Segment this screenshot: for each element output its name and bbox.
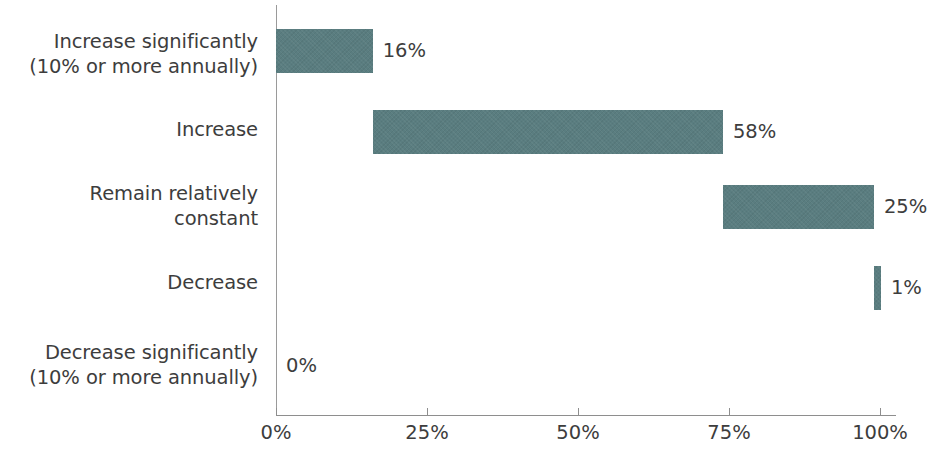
plot-area: 0% 25% 50% 75% 100% 16% 58% 25% 1% 0% <box>276 0 944 456</box>
category-label-increase-significantly: Increase significantly (10% or more annu… <box>0 29 258 79</box>
bar-remain-relatively-constant <box>723 185 874 229</box>
bar-decrease <box>874 266 881 310</box>
bar-increase <box>373 110 723 154</box>
x-tick-label-100: 100% <box>852 420 908 446</box>
category-label-decrease-significantly: Decrease significantly (10% or more annu… <box>0 340 258 390</box>
x-tick-mark-75 <box>729 408 730 416</box>
x-tick-mark-50 <box>578 408 579 416</box>
category-label-increase: Increase <box>0 117 258 142</box>
x-tick-mark-0 <box>276 408 277 416</box>
x-tick-label-75: 75% <box>707 420 750 446</box>
value-label-decrease: 1% <box>891 275 922 301</box>
value-label-remain-relatively-constant: 25% <box>884 194 927 220</box>
value-label-increase: 58% <box>733 119 776 145</box>
category-label-decrease: Decrease <box>0 270 258 295</box>
x-tick-label-25: 25% <box>405 420 448 446</box>
bar-increase-significantly <box>276 29 373 73</box>
value-label-decrease-significantly: 0% <box>286 353 317 379</box>
x-tick-label-50: 50% <box>556 420 599 446</box>
x-axis-line <box>276 415 896 416</box>
x-tick-label-0: 0% <box>261 420 292 446</box>
x-tick-mark-25 <box>427 408 428 416</box>
x-tick-mark-100 <box>880 408 881 416</box>
category-label-remain-relatively-constant: Remain relatively constant <box>0 181 258 231</box>
horizontal-bar-chart: Increase significantly (10% or more annu… <box>0 0 944 456</box>
value-label-increase-significantly: 16% <box>383 38 426 64</box>
